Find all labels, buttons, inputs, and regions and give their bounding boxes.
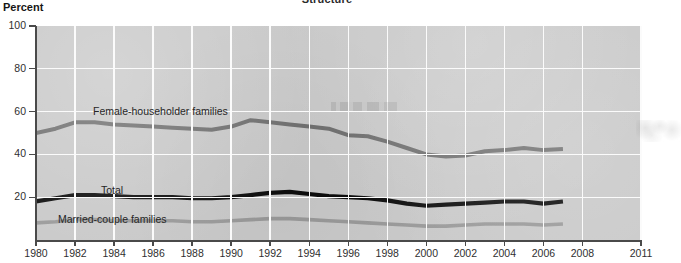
series-label-married-couple: Married-couple families xyxy=(58,213,167,225)
gridline-horizontal xyxy=(36,154,641,155)
x-axis-line xyxy=(36,240,642,242)
x-tick-mark xyxy=(230,241,231,246)
gridline-vertical xyxy=(309,26,310,240)
x-tick-mark xyxy=(640,241,641,246)
series-line-female-householder-families xyxy=(36,120,563,156)
x-tick-mark xyxy=(465,241,466,246)
x-tick-mark xyxy=(191,241,192,246)
y-tick-label: 60 xyxy=(0,105,26,117)
y-tick-label: 20 xyxy=(0,190,26,202)
x-tick-label: 2008 xyxy=(571,247,594,259)
x-tick-label: 1994 xyxy=(298,247,321,259)
gridline-vertical xyxy=(387,26,388,240)
gridline-vertical xyxy=(191,26,192,240)
scan-artifact-smudge-right xyxy=(636,120,681,142)
gridline-vertical xyxy=(426,26,427,240)
y-tick-mark xyxy=(29,25,36,26)
x-tick-mark xyxy=(504,241,505,246)
x-tick-mark xyxy=(74,241,75,246)
x-tick-mark xyxy=(348,241,349,246)
x-tick-label: 1980 xyxy=(24,247,47,259)
x-tick-mark xyxy=(426,241,427,246)
x-tick-label: 1984 xyxy=(102,247,125,259)
x-tick-mark xyxy=(309,241,310,246)
series-lines xyxy=(36,26,641,240)
x-tick-label: 2004 xyxy=(493,247,516,259)
gridline-vertical xyxy=(543,26,544,240)
y-tick-mark xyxy=(29,197,36,198)
x-tick-label: 2002 xyxy=(454,247,477,259)
gridline-vertical xyxy=(348,26,349,240)
x-tick-label: 1986 xyxy=(141,247,164,259)
gridline-vertical xyxy=(504,26,505,240)
gridline-vertical xyxy=(113,26,114,240)
x-tick-mark xyxy=(35,241,36,246)
gridline-horizontal xyxy=(36,68,641,69)
x-tick-mark xyxy=(152,241,153,246)
x-tick-mark xyxy=(269,241,270,246)
y-tick-label: 100 xyxy=(0,19,26,31)
x-tick-label: 1988 xyxy=(180,247,203,259)
y-tick-mark xyxy=(29,154,36,155)
y-axis-line xyxy=(35,26,37,241)
y-tick-label: 80 xyxy=(0,62,26,74)
y-tick-label: 40 xyxy=(0,147,26,159)
x-tick-label: 1996 xyxy=(337,247,360,259)
chart-title: Structure xyxy=(0,0,654,5)
y-axis-unit-label: Percent xyxy=(3,1,43,13)
series-label-female-householder: Female-householder families xyxy=(93,105,228,117)
gridline-vertical xyxy=(269,26,270,240)
gridline-vertical xyxy=(582,26,583,240)
gridline-horizontal xyxy=(36,197,641,198)
gridline-vertical xyxy=(230,26,231,240)
y-tick-mark xyxy=(29,68,36,69)
x-tick-label: 2000 xyxy=(415,247,438,259)
x-tick-label: 2006 xyxy=(532,247,555,259)
x-tick-mark xyxy=(113,241,114,246)
gridline-vertical xyxy=(152,26,153,240)
x-tick-mark xyxy=(387,241,388,246)
gridline-vertical xyxy=(465,26,466,240)
x-tick-label: 1982 xyxy=(63,247,86,259)
x-tick-mark xyxy=(543,241,544,246)
x-tick-label: 1990 xyxy=(219,247,242,259)
series-label-total: Total xyxy=(101,184,123,196)
x-tick-mark xyxy=(582,241,583,246)
gridline-vertical xyxy=(640,26,641,240)
y-tick-mark xyxy=(29,111,36,112)
gridline-vertical xyxy=(74,26,75,240)
plot-area: Female-householder families Total Marrie… xyxy=(36,26,641,240)
x-tick-label: 2011 xyxy=(630,247,653,259)
x-tick-label: 1998 xyxy=(376,247,399,259)
x-tick-label: 1992 xyxy=(259,247,282,259)
